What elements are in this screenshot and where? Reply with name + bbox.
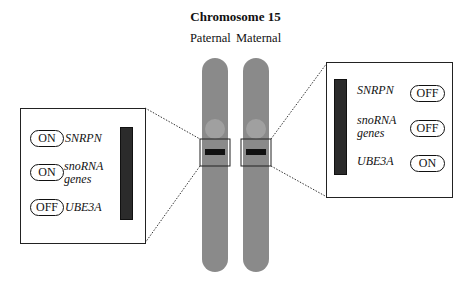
paternal-snrpn-label: SNRPN	[65, 132, 102, 145]
maternal-ube3a-label: UBE3A	[357, 155, 394, 168]
maternal-snorna-label-2: genes	[357, 127, 384, 140]
maternal-snrpn-label: SNRPN	[357, 84, 394, 97]
paternal-ube3a-state: OFF	[30, 199, 64, 216]
maternal-gene-bar	[334, 79, 347, 175]
right-connector-bottom	[271, 166, 327, 197]
paternal-gene-bar	[120, 127, 133, 220]
maternal-band	[246, 149, 266, 155]
paternal-centromere	[205, 119, 225, 139]
left-connector-top	[145, 108, 200, 139]
maternal-snrpn-state: OFF	[410, 85, 445, 102]
maternal-snorna-state: OFF	[410, 120, 445, 137]
paternal-snorna-state: ON	[30, 164, 64, 181]
left-connector-bottom	[145, 166, 200, 243]
right-connector-top	[271, 63, 327, 139]
maternal-ube3a-state: ON	[410, 155, 445, 172]
paternal-snorna-label-2: genes	[64, 173, 91, 186]
paternal-chromosome	[200, 58, 230, 272]
maternal-chromosome	[241, 58, 271, 272]
maternal-centromere	[246, 119, 266, 139]
paternal-band	[205, 149, 225, 155]
paternal-ube3a-label: UBE3A	[65, 201, 102, 214]
zoom-connectors	[145, 63, 327, 243]
paternal-snrpn-state: ON	[30, 130, 64, 147]
